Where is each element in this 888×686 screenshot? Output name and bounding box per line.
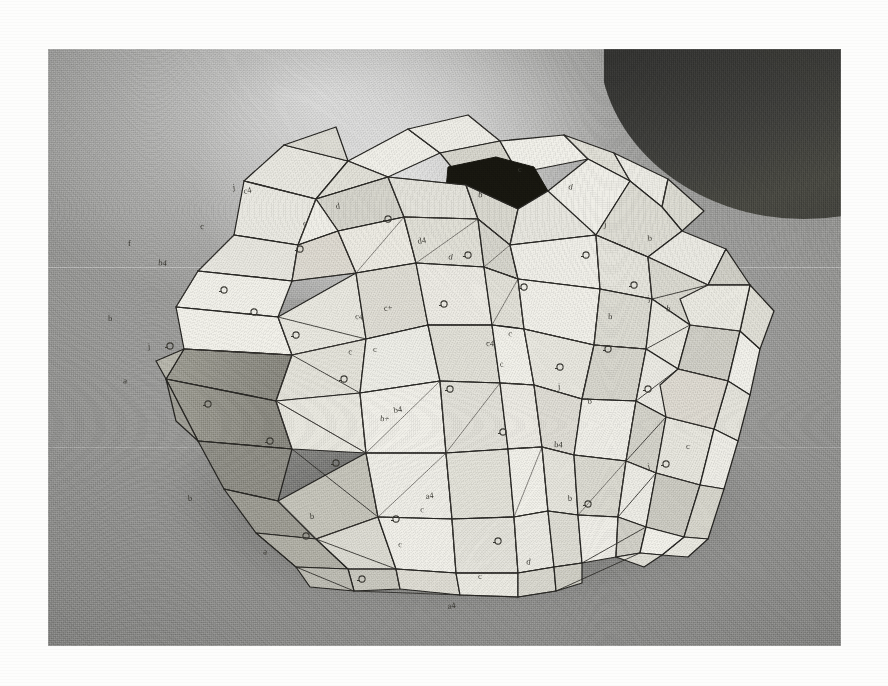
pencil-label: j xyxy=(146,341,150,351)
photograph: c4cjb4fd4c4c+ccb4b+jaba4cbdc4ccjbbjbcjb4… xyxy=(48,49,841,646)
pencil-label: b xyxy=(608,311,613,321)
pencil-label: b4 xyxy=(554,439,564,450)
pencil-label: c4 xyxy=(355,311,364,322)
pencil-label: b xyxy=(309,511,314,521)
pencil-label: j xyxy=(603,219,607,229)
pencil-label: a xyxy=(263,546,269,557)
pencil-label: c+ xyxy=(383,302,393,313)
pencil-label: f xyxy=(128,238,131,248)
pencil-label: j xyxy=(231,182,235,192)
pencil-label: c xyxy=(303,218,307,228)
polyhedral-model: c4cjb4fd4c4c+ccb4b+jaba4cbdc4ccjbbjbcjb4… xyxy=(48,49,841,646)
pencil-circled-mark xyxy=(333,460,339,466)
pencil-label: a xyxy=(123,375,129,386)
photo-page: c4cjb4fd4c4c+ccb4b+jaba4cbdc4ccjbbjbcjb4… xyxy=(0,0,888,686)
pencil-label: b xyxy=(108,313,112,323)
pencil-circled-mark xyxy=(167,343,173,349)
pencil-label: b+ xyxy=(380,413,390,424)
pencil-label: b4 xyxy=(158,257,169,268)
pencil-label: c xyxy=(478,571,482,581)
pencil-label: c xyxy=(373,344,377,354)
pencil-label: j xyxy=(557,381,561,391)
pencil-label: c4 xyxy=(486,338,495,348)
pencil-label: c xyxy=(200,221,205,231)
pencil-label: c xyxy=(686,441,690,451)
pencil-label: b xyxy=(567,493,572,503)
pencil-label: a4 xyxy=(447,600,457,611)
pencil-label: c xyxy=(518,164,523,174)
pencil-label: b xyxy=(188,493,193,503)
